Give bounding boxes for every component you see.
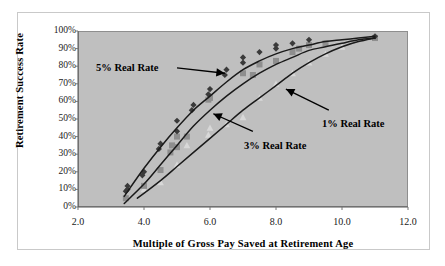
data-point-diamond — [273, 42, 279, 48]
data-point-diamond — [207, 86, 213, 92]
data-point-triangle — [207, 124, 214, 130]
data-point-diamond — [289, 40, 295, 46]
series-3-real-rate — [123, 35, 378, 201]
x-tick-label: 12.0 — [388, 216, 428, 227]
data-point-triangle — [205, 131, 212, 137]
x-tick-label: 4.0 — [124, 216, 164, 227]
x-tick-label: 6.0 — [190, 216, 230, 227]
data-point-square — [290, 49, 296, 55]
data-point-diamond — [240, 60, 246, 66]
x-tick-label: 2.0 — [58, 216, 98, 227]
data-point-triangle — [184, 142, 191, 148]
data-point-diamond — [174, 118, 180, 124]
series-1-real-rate — [141, 35, 379, 193]
x-tick-label: 10.0 — [322, 216, 362, 227]
data-point-diamond — [223, 67, 229, 73]
data-point-square — [174, 134, 180, 140]
data-point-diamond — [240, 54, 246, 60]
x-tick-label: 8.0 — [256, 216, 296, 227]
data-point-diamond — [256, 49, 262, 55]
data-point-diamond — [190, 102, 196, 108]
data-point-diamond — [306, 37, 312, 43]
chart-container: 0%10%20%30%40%50%60%70%80%90%100% Retire… — [0, 0, 445, 266]
data-point-triangle — [240, 114, 247, 120]
